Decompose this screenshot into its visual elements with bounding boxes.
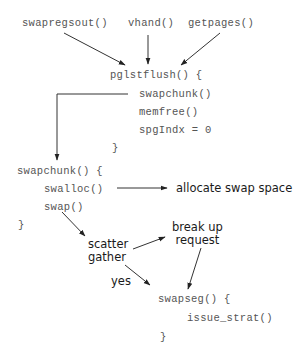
arrow-breakup-to-swapseg [188,248,201,289]
pglstflush-close: } [112,142,119,154]
pglstflush-line-memfree: memfree() [139,106,198,118]
swapseg-line-issue-strat: issue_strat() [187,312,273,324]
pglstflush-line-swapchunk: swapchunk() [139,88,212,100]
label-break-up-request: break up request [172,221,223,247]
pglstflush-line-spgindx: spgIndx = 0 [139,124,212,136]
pglstflush-header: pglstflush() { [110,69,202,81]
swapchunk-header: swapchunk() { [17,165,103,177]
arrow-getpages-to-pglstflush [181,33,220,65]
caller-swapregsout: swapregsout() [22,17,108,29]
swapchunk-close: } [18,219,25,231]
label-scatter-gather: scatter gather [88,238,128,264]
swapchunk-line-swap: swap() [44,201,84,213]
caller-getpages: getpages() [188,17,254,29]
arrow-scatter-to-breakup [133,237,165,249]
swapseg-header: swapseg() { [158,293,231,305]
arrow-swap-to-scatter [62,212,85,236]
arrow-swapregsout-to-pglstflush [64,33,125,65]
label-yes: yes [111,275,131,288]
label-allocate-swap-space: allocate swap space [176,182,292,195]
swapseg-close: } [160,331,167,343]
swapchunk-line-swalloc: swalloc() [44,183,103,195]
caller-vhand: vhand() [128,17,174,29]
